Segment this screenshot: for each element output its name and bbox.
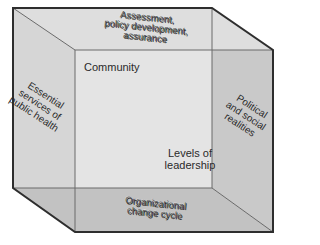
community-label: Community	[84, 62, 140, 73]
levels-of-leadership-label: Levels of leadership	[160, 147, 220, 171]
